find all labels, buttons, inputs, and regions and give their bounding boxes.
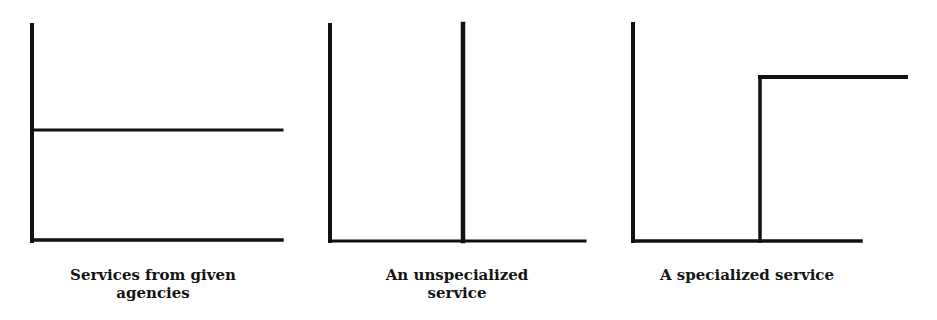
panel-3-caption: A specialized service <box>636 266 858 284</box>
panel-2-caption-line-1: An unspecialized <box>355 266 559 284</box>
figure: Services from given agencies An unspecia… <box>0 0 937 320</box>
panel-2-caption-line-2: service <box>355 284 559 302</box>
panel-1-graph <box>32 25 282 241</box>
panel-1-caption-line-2: agencies <box>40 284 266 302</box>
panel-2-graph <box>330 24 585 241</box>
panel-1-caption-line-1: Services from given <box>40 266 266 284</box>
panel-3-caption-line-1: A specialized service <box>636 266 858 284</box>
panel-1-caption: Services from given agencies <box>40 266 266 302</box>
panel-2-caption: An unspecialized service <box>355 266 559 302</box>
panel-3-graph <box>633 24 906 241</box>
